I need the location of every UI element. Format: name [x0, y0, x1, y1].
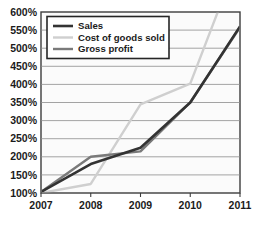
legend-label-cost-of-goods-sold: Cost of goods sold	[78, 32, 165, 43]
x-axis-tick-label: 2010	[179, 199, 203, 211]
y-axis-labels: 100%150%200%250%300%350%400%450%500%550%…	[10, 6, 38, 199]
x-axis-tick-label: 2008	[79, 199, 103, 211]
y-axis-tick-label: 350%	[10, 96, 38, 108]
chart-canvas: 100%150%200%250%300%350%400%450%500%550%…	[0, 0, 253, 225]
y-axis-tick-label: 550%	[10, 24, 38, 36]
y-axis-tick-label: 500%	[10, 42, 38, 54]
x-axis-tick-label: 2011	[229, 199, 252, 211]
y-axis-tick-label: 450%	[10, 60, 38, 72]
y-axis-tick-label: 400%	[10, 78, 38, 90]
x-axis-tick-label: 2007	[29, 199, 53, 211]
x-axis-labels: 20072008200920102011	[29, 199, 251, 211]
chart-legend: SalesCost of goods soldGross profit	[47, 17, 169, 59]
y-axis-tick-label: 600%	[10, 6, 38, 18]
x-axis-tick-label: 2009	[129, 199, 153, 211]
line-chart: 100%150%200%250%300%350%400%450%500%550%…	[0, 0, 253, 225]
legend-label-gross-profit: Gross profit	[78, 43, 134, 54]
y-axis-tick-label: 100%	[10, 187, 38, 199]
y-axis-tick-label: 300%	[10, 114, 38, 126]
legend-label-sales: Sales	[78, 20, 103, 31]
y-axis-tick-label: 250%	[10, 132, 38, 144]
y-axis-tick-label: 150%	[10, 169, 38, 181]
y-axis-tick-label: 200%	[10, 150, 38, 162]
